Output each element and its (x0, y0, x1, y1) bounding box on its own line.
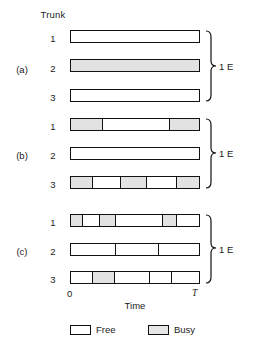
bar-segment-free (71, 90, 199, 101)
brace-a (205, 30, 216, 102)
trunk-bar-b-1 (70, 118, 200, 131)
bar-segment-free (71, 244, 116, 255)
brace-label-c: 1 E (219, 244, 233, 255)
legend-label-busy: Busy (174, 324, 195, 335)
trunk-bar-a-2 (70, 59, 200, 72)
bar-segment-free (71, 148, 199, 159)
trunk-bar-a-3 (70, 89, 200, 102)
trunk-bar-c-3 (70, 271, 200, 284)
bar-segment-free (103, 119, 170, 130)
legend-item-busy: Busy (148, 324, 195, 335)
group-label-a: (a) (8, 64, 36, 75)
busy-swatch (148, 325, 169, 335)
bar-segment-free (159, 244, 199, 255)
bar-segment-free (147, 177, 178, 188)
bar-segment-free (116, 215, 163, 226)
bar-segment-busy (71, 60, 199, 71)
axis-end-label: T (192, 288, 197, 298)
brace-label-a: 1 E (219, 61, 233, 72)
trunk-number-b-3: 3 (44, 179, 62, 190)
bar-segment-free (115, 272, 151, 283)
brace-label-b: 1 E (219, 148, 233, 159)
bar-segment-busy (163, 215, 177, 226)
legend-item-free: Free (70, 324, 116, 335)
bar-segment-free (71, 31, 199, 42)
bar-segment-busy (71, 215, 83, 226)
trunk-bar-b-3 (70, 176, 200, 189)
trunk-bar-c-1 (70, 214, 200, 227)
bar-segment-free (177, 215, 199, 226)
trunk-bar-b-2 (70, 147, 200, 160)
bar-segment-free (93, 177, 121, 188)
trunk-number-c-1: 1 (44, 217, 62, 228)
bar-segment-busy (100, 215, 115, 226)
free-swatch (70, 325, 91, 335)
bar-segment-busy (71, 177, 93, 188)
brace-b (205, 118, 216, 189)
trunk-number-a-2: 2 (44, 63, 62, 74)
legend: Free Busy (70, 324, 220, 340)
bar-segment-busy (121, 177, 147, 188)
bar-segment-free (116, 244, 160, 255)
trunk-column-header: Trunk (33, 9, 73, 20)
axis-title: Time (70, 300, 200, 311)
bar-segment-free (71, 272, 93, 283)
group-label-b: (b) (8, 150, 36, 161)
bar-segment-busy (177, 177, 199, 188)
legend-label-free: Free (96, 324, 116, 335)
group-label-c: (c) (8, 246, 36, 257)
bar-segment-busy (170, 119, 199, 130)
trunk-number-a-1: 1 (44, 33, 62, 44)
brace-c (205, 214, 216, 284)
trunk-number-c-3: 3 (44, 274, 62, 285)
bar-segment-free (83, 215, 101, 226)
trunk-number-a-3: 3 (44, 92, 62, 103)
bar-segment-busy (71, 119, 103, 130)
bar-segment-free (150, 272, 172, 283)
trunk-bar-c-2 (70, 243, 200, 256)
bar-segment-free (172, 272, 199, 283)
trunk-number-c-2: 2 (44, 246, 62, 257)
axis-start-label: 0 (67, 288, 72, 299)
trunk-number-b-1: 1 (44, 121, 62, 132)
trunk-number-b-2: 2 (44, 150, 62, 161)
bar-segment-busy (93, 272, 115, 283)
trunk-occupancy-diagram: Trunk (a) 1 2 3 1 E (b) 1 2 3 1 E (c) 1 … (0, 0, 258, 353)
trunk-bar-a-1 (70, 30, 200, 43)
